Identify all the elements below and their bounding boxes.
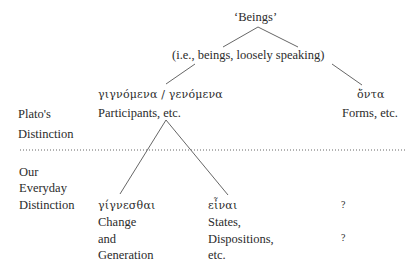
row-label-platos: Plato's xyxy=(18,107,51,121)
node-onta-greek: ὄντα xyxy=(357,88,385,102)
node-beings-loosely-speaking: (i.e., beings, loosely speaking) xyxy=(172,48,324,62)
edge-loosely-to-onta xyxy=(332,64,362,85)
node-participants: Participants, etc. xyxy=(98,106,181,120)
node-beings: ‘Beings’ xyxy=(234,10,277,24)
edge-participants-to-gignesthai xyxy=(120,120,166,194)
node-generation: Generation xyxy=(98,248,154,262)
node-forms: Forms, etc. xyxy=(342,106,398,120)
edge-beings-to-loosely xyxy=(223,27,258,47)
node-etc: etc. xyxy=(208,248,226,262)
row-label-everyday: Everyday xyxy=(19,181,67,195)
row-label-our: Our xyxy=(19,165,38,179)
edge-beings-to-loosely-right xyxy=(258,27,298,47)
edge-loosely-to-gignomena xyxy=(166,64,195,84)
node-einai-greek: εἶναι xyxy=(208,199,237,213)
unknown-mark-2: ? xyxy=(341,231,345,245)
node-states: States, xyxy=(208,215,241,229)
unknown-mark-1: ? xyxy=(341,198,345,212)
row-label-everyday-distinction: Distinction xyxy=(19,198,75,212)
node-and: and xyxy=(98,232,116,246)
node-gignomena-greek: γιγνόμενα / γενόμενα xyxy=(98,88,223,102)
node-dispositions: Dispositions, xyxy=(208,232,274,246)
node-gignesthai-greek: γίγνεσθαι xyxy=(98,199,156,213)
edge-participants-to-einai xyxy=(166,120,228,195)
node-change: Change xyxy=(98,215,136,229)
row-label-plato-distinction: Distinction xyxy=(18,127,74,141)
